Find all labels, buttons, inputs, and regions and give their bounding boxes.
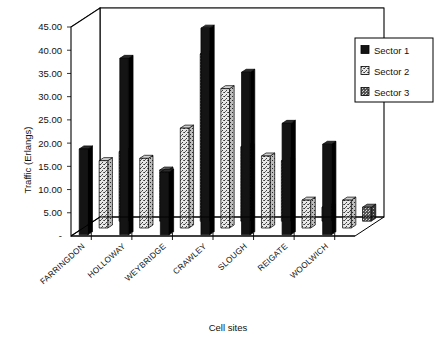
bar-side: [351, 197, 356, 228]
bar-front: [79, 149, 88, 235]
bar-side: [291, 120, 296, 235]
legend-swatch-sector-3: [361, 88, 369, 96]
bar-front: [99, 161, 108, 228]
legend-swatch-sector-2: [361, 67, 369, 75]
bar-front: [343, 200, 352, 228]
bar-side: [88, 146, 93, 235]
bar-reigate-sector-2: [302, 197, 315, 228]
chart-container: Traffic (Erlangs) Cell sites 45.0040.003…: [0, 0, 434, 349]
legend-label-sector-2: Sector 2: [374, 66, 409, 77]
bar-side: [169, 169, 174, 235]
bar-farringdon-sector-1: [79, 146, 92, 235]
bar-front: [282, 123, 291, 234]
bar-front: [120, 58, 129, 234]
legend-label-sector-3: Sector 3: [374, 87, 409, 98]
bar-front: [160, 172, 169, 235]
bar-crawley-sector-2: [221, 86, 234, 228]
bar-front: [323, 144, 332, 235]
bar-woolwich-sector-1: [323, 141, 336, 235]
y-tick-label: -: [59, 230, 62, 241]
bar-front: [221, 89, 230, 228]
y-tick-label: 30.00: [38, 91, 62, 102]
bar-side: [331, 141, 336, 235]
bar-side: [128, 55, 133, 235]
bar-weybridge-sector-1: [160, 169, 173, 235]
y-tick-label: 5.00: [44, 207, 63, 218]
y-tick-label: 20.00: [38, 138, 62, 149]
bar-front: [242, 72, 251, 235]
bar-front: [180, 128, 189, 228]
y-axis-title: Traffic (Erlangs): [22, 126, 33, 193]
bar-weybridge-sector-2: [180, 125, 193, 228]
bar-side: [210, 25, 215, 235]
bar-slough-sector-1: [242, 69, 255, 235]
y-tick-label: 45.00: [38, 21, 62, 32]
bar-woolwich-sector-2: [343, 197, 356, 228]
bar-side: [229, 86, 234, 228]
legend: Sector 1Sector 2Sector 3: [355, 38, 433, 102]
bar-front: [363, 207, 372, 221]
bar-side: [311, 197, 316, 228]
y-tick-label: 35.00: [38, 68, 62, 79]
x-axis-title: Cell sites: [209, 322, 248, 333]
bar-reigate-sector-1: [282, 120, 295, 235]
bar-side: [189, 125, 194, 228]
legend-label-sector-1: Sector 1: [374, 45, 409, 56]
y-tick-label: 10.00: [38, 184, 62, 195]
bar-holloway-sector-1: [120, 55, 133, 235]
legend-swatch-sector-1: [361, 46, 369, 54]
bar-front: [140, 158, 149, 228]
bar-front: [201, 28, 210, 235]
bar-chart-3d: Traffic (Erlangs) Cell sites 45.0040.003…: [0, 0, 434, 349]
y-tick-label: 25.00: [38, 114, 62, 125]
y-tick-label: 40.00: [38, 45, 62, 56]
bar-crawley-sector-1: [201, 25, 214, 235]
bar-front: [302, 200, 311, 228]
bar-side: [250, 69, 255, 235]
bar-woolwich-sector-3: [363, 204, 376, 221]
y-tick-label: 15.00: [38, 161, 62, 172]
